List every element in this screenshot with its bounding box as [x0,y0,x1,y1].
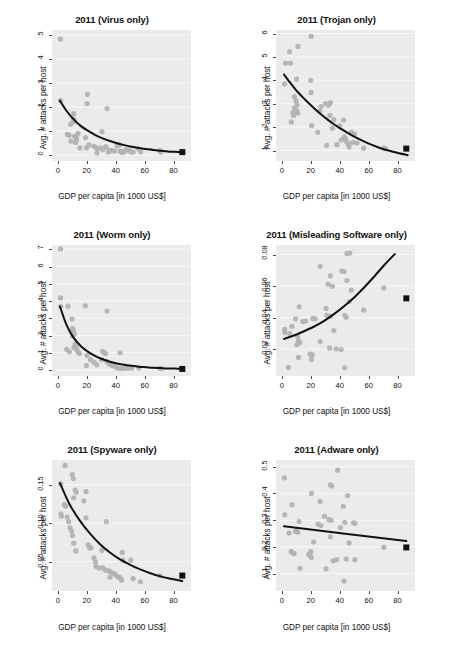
y-tick-mark [49,485,52,486]
plot-area: 01234567020406080 [52,245,191,376]
data-point [288,60,293,65]
highlight-marker [403,295,409,301]
scatter-canvas [276,245,415,376]
y-tick-mark [273,34,276,35]
data-point [318,104,323,109]
x-tick-label: 0 [56,596,60,605]
panel-title: 2011 (Worm only) [0,229,224,240]
data-point [335,468,340,473]
data-point [283,60,288,65]
data-point [83,489,88,494]
x-tick-mark [174,161,175,164]
data-point [68,122,73,127]
x-tick-mark [369,591,370,594]
scatter-canvas [276,460,415,591]
data-point [309,34,314,39]
x-tick-label: 40 [111,166,119,175]
x-tick-label: 60 [140,166,148,175]
data-point [119,150,124,155]
x-tick-mark [398,161,399,164]
y-tick-label: 0.06 [260,275,269,295]
x-tick-label: 20 [83,166,91,175]
data-point [296,355,301,360]
y-tick-mark [273,151,276,152]
plot-area: 0.10.20.30.40.5020406080 [276,460,415,591]
data-point [286,365,291,370]
x-tick-label: 40 [111,381,119,390]
data-point [93,559,98,564]
data-point [341,117,346,122]
data-point [331,328,336,333]
y-tick-label: 0 [36,143,45,163]
data-point [65,514,70,519]
data-point [138,149,143,154]
data-point [99,129,104,134]
panel-background [52,245,191,376]
data-point [83,135,88,140]
data-point [71,111,76,116]
y-tick-mark [49,562,52,563]
data-point [88,545,93,550]
data-point [297,566,302,571]
data-point [282,475,287,480]
data-point [81,498,86,503]
data-point [330,284,335,289]
panel-virus: 2011 (Virus only) Avg. # attacks per hos… [0,0,224,215]
data-point [347,540,352,545]
y-tick-label: 0.15 [36,473,45,493]
data-point [94,362,99,367]
x-tick-mark [58,376,59,379]
y-tick-label: 6 [260,22,269,42]
data-point [293,529,298,534]
data-point [318,339,323,344]
data-point [112,149,117,154]
scatter-canvas [52,460,191,591]
data-point [338,525,343,530]
data-point [119,578,124,583]
panel-background [276,460,415,591]
x-tick-mark [145,376,146,379]
data-point [310,352,315,357]
data-point [345,493,350,498]
data-point [83,515,88,520]
data-point [361,146,366,151]
x-tick-mark [282,161,283,164]
x-tick-label: 40 [335,596,343,605]
x-tick-mark [340,591,341,594]
data-point [294,342,299,347]
y-tick-mark [49,131,52,132]
y-tick-label: 0.04 [260,306,269,326]
plot-area: 0.050.100.15020406080 [52,460,191,591]
y-tick-label: 2 [36,324,45,344]
x-tick-mark [116,591,117,594]
y-tick-mark [273,80,276,81]
data-point [292,551,297,556]
y-tick-mark [49,107,52,108]
data-point [315,130,320,135]
data-point [69,528,74,533]
x-tick-mark [311,591,312,594]
x-axis-label: GDP per capita [in 1000 US$] [224,192,449,201]
data-point [289,119,294,124]
y-tick-mark [49,318,52,319]
data-point [318,499,323,504]
y-tick-mark [49,249,52,250]
data-point [291,113,296,118]
data-point [86,142,91,147]
data-point [342,520,347,525]
x-axis-label: GDP per capita [in 1000 US$] [0,192,224,201]
data-point [289,324,294,329]
x-tick-label: 40 [335,166,343,175]
data-point [295,44,300,49]
x-tick-label: 80 [169,381,177,390]
y-tick-mark [273,349,276,350]
x-tick-mark [145,591,146,594]
x-tick-mark [174,376,175,379]
y-tick-label: 4 [36,290,45,310]
data-point [73,548,78,553]
data-point [70,533,75,538]
data-point [77,351,82,356]
y-tick-label: 0.08 [260,243,269,263]
highlight-marker [179,149,185,155]
data-point [77,145,82,150]
